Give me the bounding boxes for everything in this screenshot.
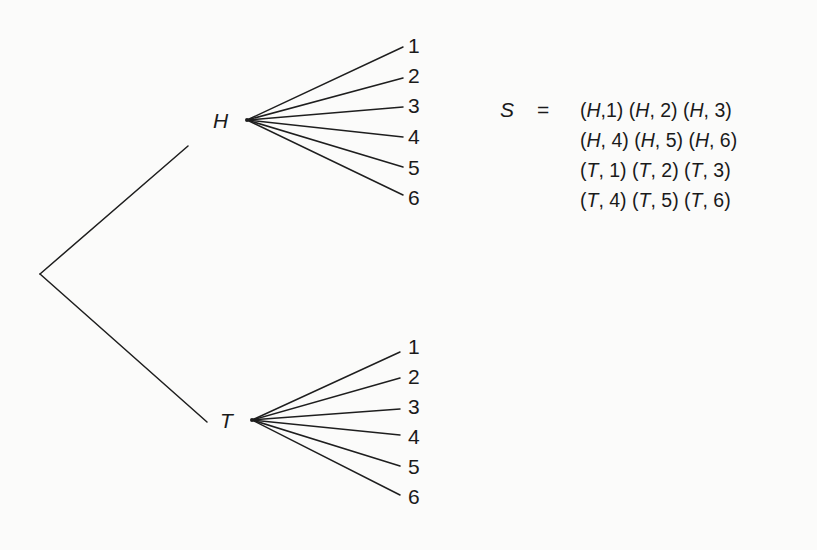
sample-space: S = (H,1) (H, 2) (H, 3)(H, 4) (H, 5) (H,… — [500, 95, 810, 220]
outcome-pair: (T, 6) — [684, 189, 731, 211]
branch-T-1 — [252, 352, 400, 420]
outcome-pair: (H, 5) — [634, 129, 683, 151]
outcome-pair: (H,1) — [580, 99, 623, 121]
outcome-label-T-1: 1 — [408, 336, 420, 357]
sample-space-row: (H,1) (H, 2) (H, 3) — [580, 95, 737, 125]
node-label-H: H — [213, 110, 228, 131]
outcome-pair: (T, 1) — [580, 159, 627, 181]
outcome-pair: (H, 4) — [580, 129, 629, 151]
sample-space-symbol: S — [500, 95, 514, 125]
branch-T-3 — [252, 409, 400, 420]
outcome-label-T-4: 4 — [408, 426, 420, 447]
outcome-label-H-5: 5 — [408, 157, 420, 178]
node-point-H — [245, 118, 249, 122]
outcome-label-T-5: 5 — [408, 456, 420, 477]
outcome-label-T-3: 3 — [408, 396, 420, 417]
branch-T-2 — [252, 378, 400, 420]
sample-space-row: (T, 1) (T, 2) (T, 3) — [580, 155, 737, 185]
branch-root-to-H — [40, 146, 188, 274]
outcome-label-H-2: 2 — [408, 65, 420, 86]
branch-root-to-T — [40, 274, 207, 422]
outcome-label-H-6: 6 — [408, 187, 420, 208]
outcome-pair: (T, 4) — [580, 189, 627, 211]
sample-space-row: (H, 4) (H, 5) (H, 6) — [580, 125, 737, 155]
outcome-label-H-4: 4 — [408, 126, 420, 147]
branch-H-4 — [247, 120, 403, 137]
branch-H-6 — [247, 120, 403, 195]
node-label-T: T — [220, 410, 233, 431]
outcome-pair: (T, 2) — [632, 159, 679, 181]
branch-H-5 — [247, 120, 403, 167]
node-point-T — [250, 418, 254, 422]
outcome-pair: (H, 2) — [629, 99, 678, 121]
sample-space-rows: (H,1) (H, 2) (H, 3)(H, 4) (H, 5) (H, 6)(… — [580, 95, 737, 215]
outcome-pair: (H, 6) — [688, 129, 737, 151]
outcome-pair: (H, 3) — [683, 99, 732, 121]
outcome-label-T-6: 6 — [408, 486, 420, 507]
outcome-pair: (T, 5) — [632, 189, 679, 211]
sample-space-row: (T, 4) (T, 5) (T, 6) — [580, 185, 737, 215]
outcome-label-H-1: 1 — [408, 35, 420, 56]
outcome-label-H-3: 3 — [408, 95, 420, 116]
outcome-label-T-2: 2 — [408, 366, 420, 387]
equals-sign: = — [537, 95, 549, 125]
outcome-pair: (T, 3) — [684, 159, 731, 181]
branch-T-6 — [252, 420, 400, 495]
